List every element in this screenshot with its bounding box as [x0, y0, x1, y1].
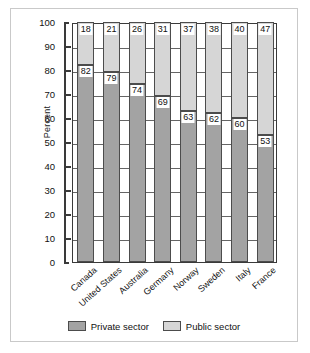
bar-segment-public[interactable]	[257, 22, 274, 135]
y-tick-mark	[64, 190, 71, 192]
y-tick-mark	[64, 94, 71, 96]
bar-stack[interactable]: 1882	[77, 22, 94, 262]
bar-value-label-public: 31	[156, 24, 169, 35]
legend-label: Public sector	[186, 321, 240, 332]
bar-value-label-private: 82	[79, 66, 92, 77]
y-tick-mark	[64, 214, 71, 216]
bar-value-label-public: 21	[105, 24, 118, 35]
y-tick-label: 100	[29, 18, 55, 28]
bar-value-label-private: 53	[259, 136, 272, 147]
bar-value-label-private: 79	[105, 73, 118, 84]
y-tick-label: 90	[29, 42, 55, 52]
bar-value-label-private: 62	[207, 114, 220, 125]
y-tick-mark	[64, 166, 71, 168]
legend-label: Private sector	[91, 321, 149, 332]
y-tick-label: 80	[29, 66, 55, 76]
bar-segment-private[interactable]	[205, 113, 222, 262]
y-tick-label: 70	[29, 90, 55, 100]
bar-segment-public[interactable]	[180, 22, 197, 111]
y-tick-label: 10	[29, 234, 55, 244]
y-tick-mark	[64, 238, 71, 240]
bar-segment-private[interactable]	[129, 84, 146, 262]
bar-stack[interactable]: 3763	[180, 22, 197, 262]
y-tick-label: 30	[29, 186, 55, 196]
bar-stack[interactable]: 4753	[257, 22, 274, 262]
legend-swatch-icon	[68, 321, 86, 331]
plot-area: 18822179267431693763386240604753	[72, 23, 277, 263]
bar-segment-private[interactable]	[180, 111, 197, 262]
legend-swatch-icon	[163, 321, 181, 331]
figure-panel: Percent 1009080706050403020100 188221792…	[10, 8, 298, 342]
bar-value-label-public: 37	[182, 24, 195, 35]
y-tick-label: 50	[29, 138, 55, 148]
bar-segment-public[interactable]	[205, 22, 222, 113]
chart-legend: Private sectorPublic sector	[11, 315, 297, 337]
legend-item[interactable]: Private sector	[68, 321, 149, 332]
bar-value-label-public: 40	[233, 24, 246, 35]
legend-item[interactable]: Public sector	[163, 321, 240, 332]
bar-segment-public[interactable]	[231, 22, 248, 118]
bar-stack[interactable]: 3862	[205, 22, 222, 262]
y-tick-label: 20	[29, 210, 55, 220]
y-tick-mark	[64, 70, 71, 72]
bar-value-label-private: 63	[182, 112, 195, 123]
bar-segment-private[interactable]	[257, 135, 274, 262]
bar-segment-private[interactable]	[231, 118, 248, 262]
y-tick-mark	[64, 118, 71, 120]
bar-value-label-private: 69	[156, 97, 169, 108]
y-tick-label: 0	[29, 258, 55, 268]
y-tick-mark	[64, 46, 71, 48]
bar-segment-private[interactable]	[77, 65, 94, 262]
bar-stack[interactable]: 2674	[129, 22, 146, 262]
bar-segment-private[interactable]	[103, 72, 120, 262]
plot-inner: 18822179267431693763386240604753	[73, 24, 276, 262]
bar-stack[interactable]: 2179	[103, 22, 120, 262]
y-tick-mark	[64, 22, 69, 24]
y-tick-label: 40	[29, 162, 55, 172]
bar-value-label-public: 38	[207, 24, 220, 35]
bar-value-label-private: 60	[233, 119, 246, 130]
y-tick-mark	[64, 142, 71, 144]
bar-value-label-public: 18	[79, 24, 92, 35]
bar-stack[interactable]: 4060	[231, 22, 248, 262]
bar-stack[interactable]: 3169	[154, 22, 171, 262]
bar-value-label-private: 74	[131, 85, 144, 96]
y-tick-mark	[64, 262, 69, 264]
y-axis-tick-labels: 1009080706050403020100	[29, 9, 55, 343]
y-tick-label: 60	[29, 114, 55, 124]
bar-value-label-public: 26	[131, 24, 144, 35]
bar-value-label-public: 47	[259, 24, 272, 35]
bar-segment-private[interactable]	[154, 96, 171, 262]
